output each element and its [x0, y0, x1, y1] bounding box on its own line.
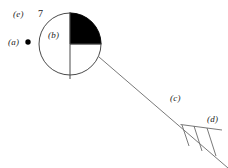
label-c: (c) [170, 94, 181, 103]
hatch-base-line [181, 125, 223, 131]
label-b: (b) [48, 31, 59, 40]
upper-right-quadrant [70, 13, 101, 44]
diagonal-connector-line [99, 57, 228, 168]
hatch-strokes [182, 125, 216, 156]
diagram-canvas [0, 0, 228, 168]
label-e: (e) [13, 10, 24, 19]
hatch-stroke [194, 126, 202, 151]
filled-dot-marker [25, 39, 30, 44]
figure-container: (e) 7 (a) (b) (c) (d) [0, 0, 228, 168]
label-d: (d) [207, 115, 218, 124]
label-a: (a) [8, 38, 19, 47]
label-seven: 7 [38, 9, 43, 19]
hatch-stroke [207, 128, 216, 156]
hatch-stroke [182, 125, 189, 146]
